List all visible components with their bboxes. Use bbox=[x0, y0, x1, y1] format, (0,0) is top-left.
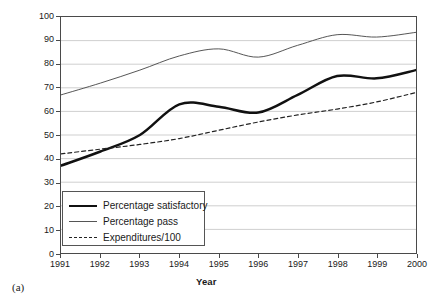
y-tick-label: 100 bbox=[28, 12, 54, 21]
x-tick-label: 1996 bbox=[238, 260, 278, 269]
legend-swatch-thick-solid-icon bbox=[69, 200, 97, 210]
y-tick-label: 60 bbox=[28, 107, 54, 116]
y-tick-label: 30 bbox=[28, 178, 54, 187]
y-tick-mark bbox=[56, 16, 60, 17]
y-tick-mark bbox=[56, 87, 60, 88]
x-tick-label: 1993 bbox=[119, 260, 159, 269]
chart-legend: Percentage satisfactory Percentage pass … bbox=[62, 191, 205, 246]
legend-swatch-thin-solid-icon bbox=[69, 216, 97, 226]
x-tick-label: 1992 bbox=[80, 260, 120, 269]
y-tick-mark bbox=[56, 40, 60, 41]
x-tick-label: 1998 bbox=[318, 260, 358, 269]
x-tick-mark bbox=[60, 254, 61, 258]
y-tick-label: 20 bbox=[28, 202, 54, 211]
y-tick-mark bbox=[56, 206, 60, 207]
x-axis-label: Year bbox=[196, 276, 216, 287]
x-tick-label: 1997 bbox=[278, 260, 318, 269]
x-tick-mark bbox=[338, 254, 339, 258]
figure-panel-a: 0102030405060708090100 19911992199319941… bbox=[0, 0, 444, 302]
x-tick-mark bbox=[377, 254, 378, 258]
x-tick-mark bbox=[258, 254, 259, 258]
y-tick-mark bbox=[56, 159, 60, 160]
y-tick-mark bbox=[56, 230, 60, 231]
legend-label: Percentage satisfactory bbox=[103, 200, 208, 211]
y-tick-label: 80 bbox=[28, 59, 54, 68]
y-tick-mark bbox=[56, 111, 60, 112]
x-tick-mark bbox=[100, 254, 101, 258]
x-tick-label: 2000 bbox=[397, 260, 437, 269]
y-tick-label: 0 bbox=[28, 250, 54, 259]
y-tick-mark bbox=[56, 183, 60, 184]
y-tick-mark bbox=[56, 135, 60, 136]
x-tick-label: 1999 bbox=[357, 260, 397, 269]
legend-item: Percentage satisfactory bbox=[69, 197, 199, 213]
x-tick-label: 1994 bbox=[159, 260, 199, 269]
x-tick-mark bbox=[139, 254, 140, 258]
legend-label: Expenditures/100 bbox=[103, 232, 181, 243]
y-tick-label: 90 bbox=[28, 35, 54, 44]
x-tick-mark bbox=[219, 254, 220, 258]
figure-caption: (a) bbox=[12, 281, 24, 293]
legend-item: Expenditures/100 bbox=[69, 229, 199, 245]
y-tick-label: 10 bbox=[28, 226, 54, 235]
legend-swatch-dashed-icon bbox=[69, 232, 97, 242]
x-tick-label: 1991 bbox=[40, 260, 80, 269]
x-tick-mark bbox=[298, 254, 299, 258]
y-tick-label: 40 bbox=[28, 154, 54, 163]
x-tick-mark bbox=[417, 254, 418, 258]
y-tick-label: 50 bbox=[28, 131, 54, 140]
legend-item: Percentage pass bbox=[69, 213, 199, 229]
y-tick-mark bbox=[56, 64, 60, 65]
legend-label: Percentage pass bbox=[103, 216, 178, 227]
x-tick-label: 1995 bbox=[199, 260, 239, 269]
x-tick-mark bbox=[179, 254, 180, 258]
y-tick-label: 70 bbox=[28, 83, 54, 92]
